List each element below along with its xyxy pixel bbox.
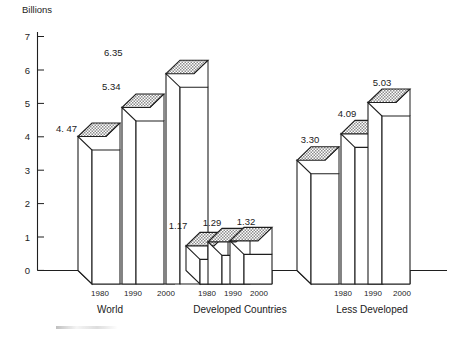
y-tick-label-0: 0 [25,265,30,276]
x-tick-label-developed-1990: 1990 [224,289,242,298]
y-axis-ticks [38,37,45,271]
y-axis-unit-label: Billions [22,4,52,15]
x-tick-label-lessdev-1980: 1980 [334,289,352,298]
x-tick-label-developed-2000: 2000 [250,289,268,298]
y-tick-label-2: 2 [25,198,30,209]
bar-value-lessdev-1980: 3.30 [301,134,320,145]
bar-value-world-1990: 5.34 [102,81,121,92]
x-tick-label-world-2000: 2000 [157,289,175,298]
x-tick-label-lessdev-2000: 2000 [393,289,411,298]
y-tick-label-7: 7 [25,31,30,42]
y-tick-label-4: 4 [25,131,30,142]
x-tick-label-developed-1980: 1980 [198,289,216,298]
bar-value-lessdev-2000: 5.03 [373,77,392,88]
x-tick-label-world-1990: 1990 [124,289,142,298]
bar-developed-2000[interactable] [230,227,272,284]
bar-group-world: 4. 47 5.34 6.35 1980 1990 20 [56,47,208,315]
bar-value-lessdev-1990: 4.09 [338,108,357,119]
bar-world-1990[interactable] [122,94,164,284]
x-tick-label-world-1980: 1980 [91,289,109,298]
y-tick-label-1: 1 [25,232,30,243]
bar-value-developed-1990: 1.29 [203,217,222,228]
group-label-world: World [97,304,123,315]
y-tick-label-6: 6 [25,65,30,76]
bar-lessdev-2000[interactable] [368,89,410,284]
y-axis: 7 6 5 4 3 2 1 0 [25,31,44,276]
scan-artifact-smudge [56,326,118,329]
bar-value-developed-1980: 1.17 [169,220,188,231]
bar-value-world-1980: 4. 47 [56,123,77,134]
x-tick-label-lessdev-1990: 1990 [364,289,382,298]
bar-value-developed-2000: 1.32 [237,216,256,227]
group-label-developed-countries: Developed Countries [193,304,286,315]
population-projection-bar-chart: 7 6 5 4 3 2 1 0 Billions [0,0,451,337]
y-tick-label-3: 3 [25,165,30,176]
bar-lessdev-1980[interactable] [297,147,339,284]
bar-group-developed-countries: 1.17 1.29 1.32 1980 1990 2000 [169,216,287,315]
bar-group-less-developed: 3.30 4.09 5.03 1980 1990 2000 [297,77,411,315]
bar-world-1980[interactable] [78,123,120,284]
chart-canvas: 7 6 5 4 3 2 1 0 Billions [0,0,451,337]
group-label-less-developed: Less Developed [336,304,408,315]
bar-value-world-2000: 6.35 [104,47,123,58]
y-tick-label-5: 5 [25,98,30,109]
